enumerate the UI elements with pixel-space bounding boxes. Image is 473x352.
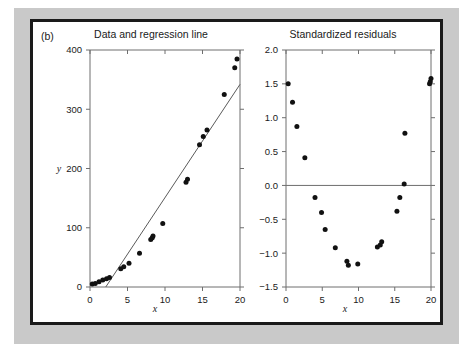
right-chart-axes xyxy=(282,50,435,291)
data-point xyxy=(429,76,434,81)
y-tick-label: 2.0 xyxy=(265,44,278,55)
regression-line xyxy=(106,84,240,287)
data-point xyxy=(323,227,328,232)
data-point xyxy=(286,81,291,86)
x-tick-label: 0 xyxy=(283,294,288,305)
data-point xyxy=(137,251,142,256)
y-tick-label: −1.5 xyxy=(259,281,278,292)
data-point xyxy=(333,245,338,250)
x-tick-label: 15 xyxy=(197,294,208,305)
data-point xyxy=(232,65,237,70)
left-chart-axes xyxy=(86,50,244,291)
right-chart-title: Standardized residuals xyxy=(290,28,397,40)
y-tick-label: 1.0 xyxy=(265,112,278,123)
y-tick-label: 0 xyxy=(77,281,82,292)
data-point xyxy=(319,210,324,215)
left-chart-data-points xyxy=(90,56,240,286)
y-tick-label: 0.0 xyxy=(265,180,278,191)
data-point xyxy=(294,124,299,129)
y-tick-label: 100 xyxy=(66,222,82,233)
x-tick-label: 5 xyxy=(125,294,130,305)
data-point xyxy=(313,195,318,200)
panel-label: (b) xyxy=(41,30,54,42)
data-point xyxy=(402,182,407,187)
data-point xyxy=(235,56,240,61)
data-point xyxy=(121,264,126,269)
x-tick-label: 20 xyxy=(235,294,246,305)
data-point xyxy=(201,134,206,139)
left-chart-y-axis-label: y xyxy=(56,163,62,174)
data-point xyxy=(222,92,227,97)
right-chart-x-axis-label: x xyxy=(342,303,348,314)
data-point xyxy=(402,131,407,136)
figure-svg: (b) Data and regression line 01002003004… xyxy=(33,22,440,322)
data-point xyxy=(346,263,351,268)
x-tick-label: 20 xyxy=(426,294,437,305)
left-chart-y-tick-labels: 0100200300400 xyxy=(66,44,82,292)
x-tick-label: 10 xyxy=(353,294,364,305)
y-tick-label: 1.5 xyxy=(265,78,278,89)
left-chart: Data and regression line 0100200300400 0… xyxy=(56,28,246,314)
right-chart: Standardized residuals −1.5−1.0−0.50.00.… xyxy=(259,28,436,314)
right-chart-x-tick-labels: 05101520 xyxy=(283,294,436,305)
figure-root: (b) Data and regression line 01002003004… xyxy=(0,0,473,352)
y-tick-label: 200 xyxy=(66,163,82,174)
x-tick-label: 0 xyxy=(87,294,92,305)
y-tick-label: −0.5 xyxy=(259,214,278,225)
x-tick-label: 10 xyxy=(160,294,171,305)
left-chart-x-tick-labels: 05101520 xyxy=(87,294,245,305)
y-tick-label: 400 xyxy=(66,44,82,55)
data-point xyxy=(197,142,202,147)
data-point xyxy=(302,155,307,160)
y-tick-label: 0.5 xyxy=(265,146,278,157)
data-point xyxy=(397,195,402,200)
data-point xyxy=(290,100,295,105)
figure-panel-card: (b) Data and regression line 01002003004… xyxy=(30,19,443,325)
data-point xyxy=(355,261,360,266)
data-point xyxy=(205,127,210,132)
y-tick-label: −1.0 xyxy=(259,248,278,259)
data-point xyxy=(151,234,156,239)
x-tick-label: 5 xyxy=(320,294,325,305)
y-tick-label: 300 xyxy=(66,104,82,115)
x-tick-label: 15 xyxy=(389,294,400,305)
data-point xyxy=(127,261,132,266)
left-chart-title: Data and regression line xyxy=(94,28,208,40)
left-chart-x-axis-label: x xyxy=(152,303,158,314)
data-point xyxy=(185,177,190,182)
data-point xyxy=(107,275,112,280)
right-chart-y-tick-labels: −1.5−1.0−0.50.00.51.01.52.0 xyxy=(259,44,278,292)
right-chart-data-points xyxy=(286,76,434,268)
data-point xyxy=(394,209,399,214)
data-point xyxy=(160,221,165,226)
data-point xyxy=(379,239,384,244)
